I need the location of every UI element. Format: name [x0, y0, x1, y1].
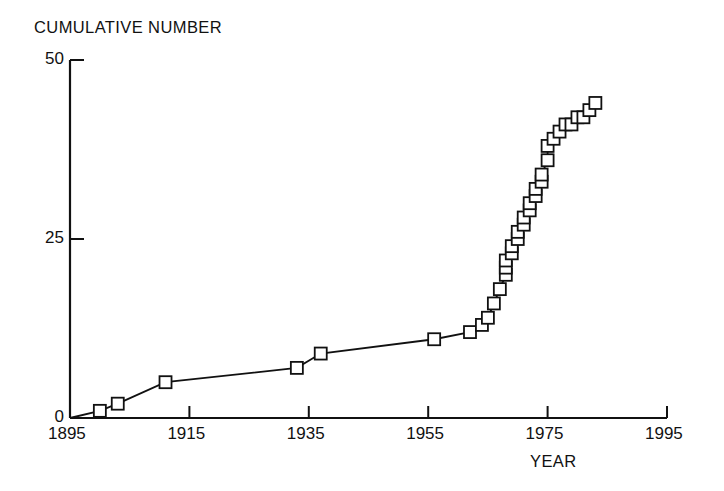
- data-point-marker: [291, 362, 303, 374]
- x-tick-label: 1995: [645, 424, 683, 444]
- data-point-marker: [112, 398, 124, 410]
- plot-area: [0, 0, 724, 491]
- data-point-marker: [488, 297, 500, 309]
- y-tick-label: 50: [22, 49, 64, 69]
- data-point-marker: [315, 348, 327, 360]
- data-point-marker: [542, 154, 554, 166]
- data-point-marker: [464, 326, 476, 338]
- y-tick-marks: [70, 60, 84, 239]
- data-point-marker: [94, 405, 106, 417]
- data-point-marker: [160, 376, 172, 388]
- data-markers: [94, 97, 602, 417]
- chart-figure: CUMULATIVE NUMBER YEAR 18951915193519551…: [0, 0, 724, 491]
- x-tick-label: 1895: [48, 424, 86, 444]
- data-line: [70, 103, 595, 418]
- x-tick-label: 1935: [287, 424, 325, 444]
- y-tick-label: 0: [22, 407, 64, 427]
- x-tick-label: 1915: [167, 424, 205, 444]
- data-point-marker: [536, 169, 548, 181]
- x-tick-marks: [70, 406, 667, 418]
- data-point-marker: [494, 283, 506, 295]
- x-tick-label: 1955: [406, 424, 444, 444]
- data-point-marker: [428, 333, 440, 345]
- y-tick-label: 25: [22, 228, 64, 248]
- data-point-marker: [589, 97, 601, 109]
- x-tick-label: 1975: [526, 424, 564, 444]
- data-point-marker: [482, 312, 494, 324]
